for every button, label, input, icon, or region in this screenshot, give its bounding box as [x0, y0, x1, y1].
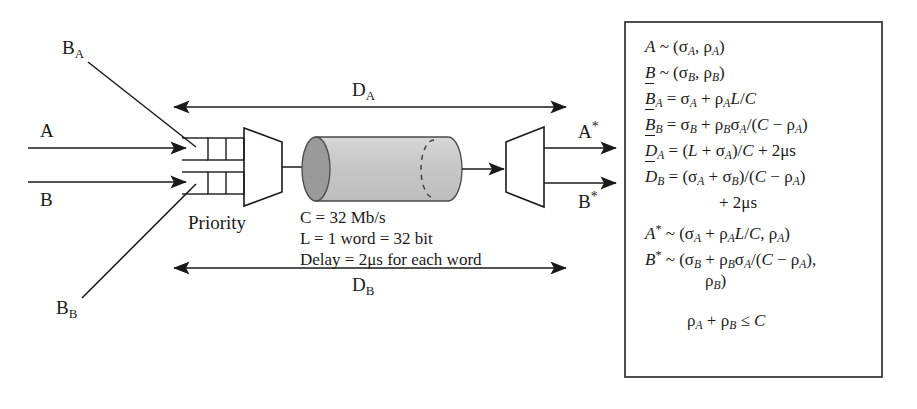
label-span-db: DB: [352, 275, 374, 298]
leader-line-bb: [82, 184, 196, 298]
leader-line-ba: [88, 62, 196, 147]
label-output-b-star: B*: [578, 190, 598, 211]
formula-line-f5: DA = (L + σA)/C + 2μs: [645, 138, 875, 164]
channel-cylinder: [302, 137, 462, 201]
formula-line-f2: B ~ (σB, ρB): [645, 60, 875, 86]
caption-line-rate: C = 32 Mb/s: [300, 207, 482, 228]
formula-line-f10: ρB): [645, 268, 875, 294]
output-demultiplexer: [506, 127, 544, 207]
label-input-a: A: [40, 121, 54, 140]
buffer-a: [182, 138, 244, 160]
formula-line-f4: BB = σB + ρBσA/(C − ρA): [645, 112, 875, 138]
formula-line-f9: B* ~ (σB + ρBσA/(C − ρA),: [645, 242, 875, 268]
label-span-da: DA: [352, 80, 375, 103]
formula-box: A ~ (σA, ρA)B ~ (σB, ρB)BA = σA + ρAL/CB…: [645, 34, 875, 334]
formula-line-f6: DB = (σA + σB)/(C − ρA): [645, 164, 875, 190]
caption-line-word: L = 1 word = 32 bit: [300, 228, 482, 249]
channel-caption: C = 32 Mb/s L = 1 word = 32 bit Delay = …: [300, 207, 482, 270]
formula-line-f7: + 2μs: [645, 190, 875, 216]
formula-line-f1: A ~ (σA, ρA): [645, 34, 875, 60]
caption-line-delay: Delay = 2μs for each word: [300, 249, 482, 270]
label-output-a-star: A*: [578, 120, 599, 141]
buffer-b: [182, 172, 244, 194]
diagram-canvas: A B BA BB Priority A* B* DA DB C = 32 Mb…: [0, 0, 917, 409]
label-buffer-bb: BB: [56, 298, 77, 321]
formula-line-f8: A* ~ (σA + ρAL/C, ρA): [645, 216, 875, 242]
label-input-b: B: [40, 190, 53, 209]
label-priority-mux: Priority: [188, 213, 246, 232]
formula-line-f3: BA = σA + ρAL/C: [645, 86, 875, 112]
label-buffer-ba: BA: [62, 38, 84, 61]
formula-line-f11: [645, 294, 875, 308]
priority-multiplexer: [244, 128, 282, 206]
formula-line-f12: ρA + ρB ≤ C: [645, 308, 875, 334]
